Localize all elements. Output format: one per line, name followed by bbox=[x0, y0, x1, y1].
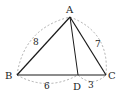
vertex-label-d: D bbox=[73, 81, 81, 92]
length-label-dc: 3 bbox=[88, 80, 94, 90]
vertex-label-a: A bbox=[65, 4, 74, 15]
length-label-bd: 6 bbox=[44, 81, 50, 91]
segment-ad bbox=[70, 17, 78, 75]
length-label-ab: 8 bbox=[33, 37, 39, 47]
triangle-diagram: A B C D 8 7 6 3 bbox=[0, 0, 124, 96]
vertex-label-c: C bbox=[108, 70, 116, 81]
vertex-label-b: B bbox=[5, 70, 12, 81]
segment-ab bbox=[17, 17, 70, 75]
length-label-ac: 7 bbox=[95, 39, 101, 49]
diagram-canvas: A B C D 8 7 6 3 bbox=[0, 0, 124, 96]
